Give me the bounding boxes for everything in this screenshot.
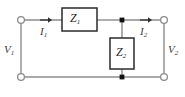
terminal-top-right — [161, 17, 168, 24]
current-arrow-i1 — [40, 17, 52, 23]
label-z1: Z1 — [70, 12, 80, 24]
terminal-top-left — [18, 17, 25, 24]
current-arrow-i2 — [140, 17, 152, 23]
label-i1: I1 — [40, 26, 47, 37]
label-z2: Z2 — [116, 46, 126, 58]
junction-dot-top — [120, 18, 125, 23]
circuit-diagram: V1 V2 I1 I2 Z1 Z2 — [0, 0, 185, 97]
circuit-schematic-svg — [0, 0, 185, 97]
terminal-bottom-left — [18, 74, 25, 81]
label-i2: I2 — [140, 26, 147, 37]
label-v2: V2 — [168, 44, 178, 55]
terminal-bottom-right — [161, 74, 168, 81]
label-v1: V1 — [4, 44, 14, 55]
junction-dot-bottom — [120, 75, 125, 80]
